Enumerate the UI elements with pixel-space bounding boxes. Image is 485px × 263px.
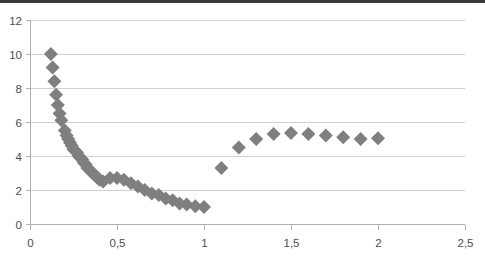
data-point — [336, 130, 350, 144]
x-tick-label-0,5: 0,5 — [110, 237, 126, 249]
y-tick-label-6: 6 — [16, 117, 22, 129]
data-point — [44, 47, 58, 61]
y-tick-label-0: 0 — [16, 219, 22, 231]
data-point — [47, 74, 61, 88]
data-point — [197, 200, 211, 214]
y-tick-label-10: 10 — [9, 49, 22, 61]
x-tick-label-1,5: 1,5 — [284, 237, 300, 249]
y-tick-label-12: 12 — [9, 15, 22, 27]
x-tick-label-0: 0 — [27, 237, 33, 249]
data-point — [214, 161, 228, 175]
data-point — [49, 88, 63, 102]
data-point — [354, 132, 368, 146]
data-point — [232, 141, 246, 155]
x-tick-label-2,5: 2,5 — [458, 237, 474, 249]
x-tick-label-2: 2 — [375, 237, 381, 249]
data-point — [301, 127, 315, 141]
data-point — [249, 132, 263, 146]
data-series-series-1 — [44, 47, 385, 214]
data-point — [284, 126, 298, 140]
chart-screenshot: 02468101200,511,522,5 — [0, 0, 485, 263]
x-tick-label-1: 1 — [201, 237, 207, 249]
y-tick-label-8: 8 — [16, 83, 22, 95]
data-point — [319, 129, 333, 143]
data-point — [267, 127, 281, 141]
scatter-chart: 02468101200,511,522,5 — [0, 0, 485, 263]
data-point — [46, 61, 60, 75]
y-tick-label-2: 2 — [16, 185, 22, 197]
data-point — [371, 131, 385, 145]
y-tick-label-4: 4 — [16, 151, 23, 163]
